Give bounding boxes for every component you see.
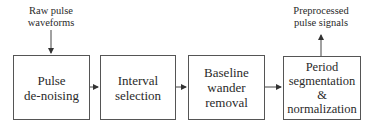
output-label-line: Preprocessed (274, 5, 368, 17)
block-text: normalization (287, 102, 356, 116)
input-label-line: Raw pulse (8, 5, 94, 17)
block-text: Pulse (37, 73, 65, 88)
block-text: wander (207, 80, 245, 95)
block-text: Period (306, 60, 339, 74)
block-text: Interval (118, 73, 158, 88)
block-period-segmentation-normalization: Period segmentation & normalization (283, 56, 361, 120)
block-baseline-wander-removal: Baseline wander removal (188, 55, 265, 120)
block-text: & (317, 88, 327, 102)
output-label: Preprocessed pulse signals (274, 5, 368, 29)
block-pulse-denoising: Pulse de-noising (13, 55, 90, 120)
output-label-line: pulse signals (274, 17, 368, 29)
block-text: removal (205, 95, 248, 110)
block-text: Baseline (204, 65, 249, 80)
block-text: segmentation (289, 74, 356, 88)
input-label: Raw pulse waveforms (8, 5, 94, 29)
block-interval-selection: Interval selection (100, 55, 176, 120)
block-text: selection (115, 88, 161, 103)
input-label-line: waveforms (8, 17, 94, 29)
block-text: de-noising (24, 88, 79, 103)
